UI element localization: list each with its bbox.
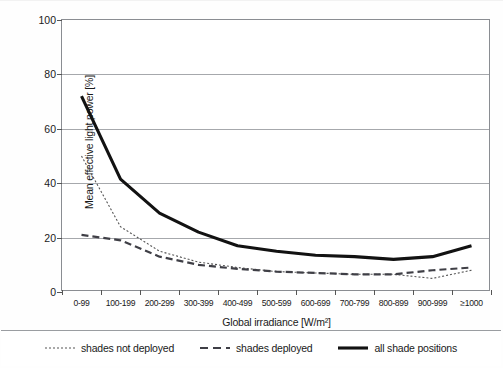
- x-tick-label: 500-599: [262, 299, 291, 308]
- legend-swatch-solid-icon: [338, 343, 368, 353]
- chart-legend: shades not deployedshades deployedall sh…: [1, 330, 501, 366]
- plot-area: Mean effective light power [%] 020406080…: [61, 19, 490, 291]
- y-tick-label: 100: [38, 15, 56, 26]
- x-tick-label: 400-499: [223, 299, 252, 308]
- figure-top-edge: [0, 0, 503, 1]
- series-line-shades-not-deployed: [82, 156, 472, 278]
- data-series-layer: [62, 20, 491, 292]
- series-line-shades-deployed: [82, 235, 472, 274]
- x-tick-label: ≥1000: [460, 299, 482, 308]
- legend-swatch-dashed-icon: [200, 343, 230, 353]
- legend-item-shades-deployed[interactable]: shades deployed: [200, 342, 312, 354]
- x-tick-label: 200-299: [145, 299, 174, 308]
- legend-label: all shade positions: [374, 342, 457, 354]
- legend-item-all-shade-positions[interactable]: all shade positions: [338, 342, 457, 354]
- x-tick-label: 800-899: [379, 299, 408, 308]
- x-tick-label: 300-399: [184, 299, 213, 308]
- y-tick-label: 40: [44, 178, 56, 189]
- x-tick-label: 600-699: [301, 299, 330, 308]
- x-tick-label: 0-99: [73, 299, 89, 308]
- y-tick-label: 80: [44, 69, 56, 80]
- x-tick-label: 700-799: [340, 299, 369, 308]
- legend-swatch-dotted-icon: [45, 343, 75, 353]
- x-tick-mark: [491, 290, 492, 295]
- y-tick-label: 0: [50, 287, 56, 298]
- x-axis-title: Global irradiance [W/m²]: [62, 316, 491, 328]
- legend-label: shades not deployed: [81, 342, 174, 354]
- series-line-all-shade-positions: [82, 96, 472, 259]
- chart-figure: Mean effective light power [%] 020406080…: [0, 0, 503, 368]
- x-tick-label: 900-999: [418, 299, 447, 308]
- y-tick-label: 20: [44, 232, 56, 243]
- x-tick-label: 100-199: [106, 299, 135, 308]
- legend-items: shades not deployedshades deployedall sh…: [1, 331, 501, 359]
- legend-item-shades-not-deployed[interactable]: shades not deployed: [45, 342, 174, 354]
- legend-label: shades deployed: [236, 342, 312, 354]
- y-tick-label: 60: [44, 124, 56, 135]
